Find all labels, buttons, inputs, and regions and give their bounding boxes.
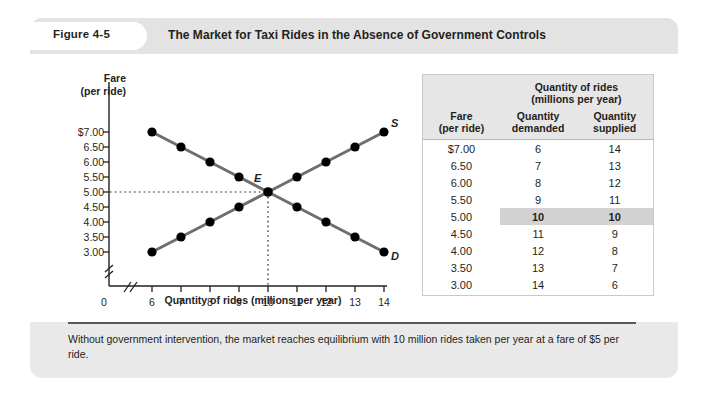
cell-quantity-demanded: 13 (500, 259, 577, 276)
y-axis-title-line2: (per ride) (46, 85, 126, 98)
data-table: Quantity of rides (millions per year) Fa… (423, 75, 653, 293)
table-row: 3.50 13 7 (423, 259, 653, 276)
figure-title: The Market for Taxi Rides in the Absence… (168, 28, 546, 42)
x-axis-break-icon (124, 282, 137, 292)
table-row: 6.00 8 12 (423, 174, 653, 191)
table-group-header-line2: (millions per year) (500, 93, 653, 105)
table-group-header-quantity: Quantity of rides (millions per year) (500, 75, 653, 106)
caption-divider (68, 322, 636, 324)
supply-curve-label: S (391, 117, 398, 129)
y-tick-label-5-50: 5.50 (50, 171, 104, 183)
cell-quantity-demanded: 14 (500, 276, 577, 293)
cell-fare: 6.00 (423, 174, 500, 191)
cell-quantity-supplied: 6 (576, 276, 653, 293)
equilibrium-point (263, 187, 273, 197)
table-header-fare-line2: (per ride) (423, 122, 500, 134)
cell-fare: $7.00 (423, 140, 500, 158)
cell-fare: 3.50 (423, 259, 500, 276)
cell-quantity-demanded: 9 (500, 191, 577, 208)
cell-quantity-supplied: 7 (576, 259, 653, 276)
cell-quantity-supplied: 14 (576, 140, 653, 158)
cell-quantity-demanded: 7 (500, 157, 577, 174)
table-header-fare: Fare (per ride) (423, 106, 500, 140)
table-header-fare-line1: Fare (423, 110, 500, 122)
cell-quantity-supplied: 11 (576, 191, 653, 208)
figure-caption: Without government intervention, the mar… (68, 332, 640, 362)
x-tick-marks (152, 286, 384, 292)
figure-title-bar: Figure 4-5 The Market for Taxi Rides in … (30, 18, 678, 54)
table-header-qs-line1: Quantity (576, 110, 653, 122)
cell-quantity-demanded: 8 (500, 174, 577, 191)
table-row: $7.00 6 14 (423, 140, 653, 158)
table-header-quantity-supplied: Quantity supplied (576, 106, 653, 140)
demand-curve-label: D (391, 250, 399, 262)
y-tick-label-6-00: 6.00 (50, 156, 104, 168)
figure-content-panel: Fare (per ride) $7.00 6.50 6.00 5.50 5.0… (30, 54, 678, 322)
table-row: 4.50 11 9 (423, 225, 653, 242)
y-tick-label-4-50: 4.50 (50, 201, 104, 213)
table-header-qd-line2: demanded (500, 122, 577, 134)
y-tick-label-5-00: 5.00 (50, 186, 104, 198)
x-axis-title: Quantity of rides (millions per year) (108, 294, 398, 306)
table-group-header-line1: Quantity of rides (500, 81, 653, 93)
cell-quantity-demanded: 11 (500, 225, 577, 242)
cell-fare: 3.00 (423, 276, 500, 293)
cell-fare: 6.50 (423, 157, 500, 174)
figure-number-badge: Figure 4-5 (30, 22, 147, 50)
cell-quantity-supplied: 10 (576, 208, 653, 225)
cell-fare: 5.00 (423, 208, 500, 225)
cell-quantity-demanded: 10 (500, 208, 577, 225)
table-row: 6.50 7 13 (423, 157, 653, 174)
table-header-qd-line1: Quantity (500, 110, 577, 122)
figure-caption-block: Without government intervention, the mar… (30, 322, 678, 378)
y-axis-title: Fare (per ride) (46, 72, 126, 98)
y-tick-label-3-50: 3.50 (50, 231, 104, 243)
cell-quantity-demanded: 6 (500, 140, 577, 158)
cell-quantity-supplied: 9 (576, 225, 653, 242)
figure-number-label: Figure 4-5 (30, 28, 133, 40)
table-row-equilibrium: 5.00 10 10 (423, 208, 653, 225)
table-column-header-row: Fare (per ride) Quantity demanded Quanti… (423, 106, 653, 140)
table-row: 4.00 12 8 (423, 242, 653, 259)
table-header-qs-line2: supplied (576, 122, 653, 134)
table-group-header-row: Quantity of rides (millions per year) (423, 75, 653, 106)
table-header-quantity-demanded: Quantity demanded (500, 106, 577, 140)
cell-quantity-supplied: 8 (576, 242, 653, 259)
y-tick-label-3-00: 3.00 (50, 246, 104, 258)
cell-quantity-supplied: 12 (576, 174, 653, 191)
cell-fare: 4.00 (423, 242, 500, 259)
equilibrium-label: E (254, 172, 261, 184)
table-row: 5.50 9 11 (423, 191, 653, 208)
y-axis-title-line1: Fare (46, 72, 126, 85)
cell-fare: 4.50 (423, 225, 500, 242)
y-tick-label-4-00: 4.00 (50, 216, 104, 228)
cell-quantity-demanded: 12 (500, 242, 577, 259)
supply-demand-chart: Fare (per ride) $7.00 6.50 6.00 5.50 5.0… (30, 54, 422, 322)
y-tick-label-7-00: $7.00 (50, 126, 104, 138)
table-group-header-spacer (423, 75, 500, 106)
figure-card: Figure 4-5 The Market for Taxi Rides in … (30, 18, 678, 378)
cell-quantity-supplied: 13 (576, 157, 653, 174)
y-tick-label-6-50: 6.50 (50, 141, 104, 153)
supply-demand-table: Quantity of rides (millions per year) Fa… (422, 74, 654, 296)
cell-fare: 5.50 (423, 191, 500, 208)
table-row: 3.00 14 6 (423, 276, 653, 293)
